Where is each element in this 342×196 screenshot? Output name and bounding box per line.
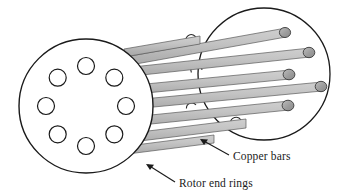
copper-bars-leader-line [202, 140, 229, 155]
bolt-hole [106, 126, 123, 143]
bolt-hole [106, 69, 123, 86]
copper-bar-end-cap [303, 47, 315, 57]
copper-bars-label: Copper bars [233, 150, 291, 163]
squirrel-cage-rotor-diagram: Copper bars Rotor end rings [0, 0, 342, 196]
rotor-end-rings-leader-line [148, 165, 175, 182]
figure-root: Copper bars Rotor end rings [0, 0, 342, 196]
bolt-hole [78, 58, 95, 75]
bolt-hole [49, 126, 66, 143]
bolt-hole [38, 98, 55, 115]
bolt-hole [118, 98, 135, 115]
rotor-end-rings-label: Rotor end rings [179, 177, 253, 190]
bolt-hole [49, 69, 66, 86]
rotor-end-rings-leader-arrowhead [146, 164, 154, 170]
copper-bar-end-cap [279, 28, 290, 38]
bolt-hole [78, 138, 95, 155]
copper-bar-end-cap [283, 69, 295, 80]
copper-bar-end-cap [282, 100, 294, 111]
left-end-ring [19, 39, 153, 173]
copper-bar-end-cap [315, 81, 327, 91]
